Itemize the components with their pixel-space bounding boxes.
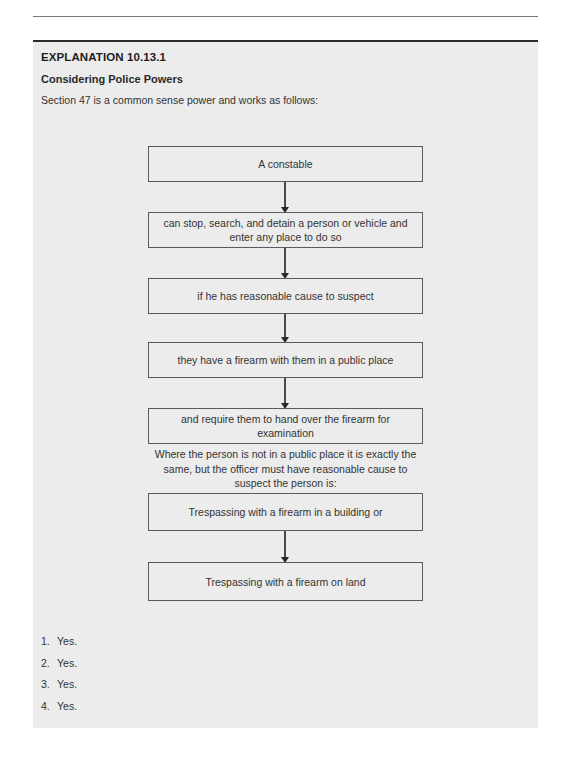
private-place-note: Where the person is not in a public plac… xyxy=(148,447,423,491)
answer-number: 1. xyxy=(41,635,57,657)
arrow-down-icon xyxy=(284,378,286,408)
explanation-label: EXPLANATION 10.13.1 xyxy=(41,51,166,63)
arrow-down-icon xyxy=(284,182,286,212)
flow-step-firearm-public: they have a firearm with them in a publi… xyxy=(148,342,423,378)
answer-text: Yes. xyxy=(57,678,77,700)
explanation-title: Considering Police Powers xyxy=(41,73,183,85)
flow-alt-land: Trespassing with a firearm on land xyxy=(148,562,423,601)
arrow-down-icon xyxy=(284,314,286,342)
explanation-box: EXPLANATION 10.13.1 Considering Police P… xyxy=(33,40,538,728)
answer-item: 2.Yes. xyxy=(41,657,77,679)
answer-number: 2. xyxy=(41,657,57,679)
answer-item: 4.Yes. xyxy=(41,700,77,722)
answer-text: Yes. xyxy=(57,657,77,679)
answer-number: 4. xyxy=(41,700,57,722)
answer-number: 3. xyxy=(41,678,57,700)
flow-alt-building: Trespassing with a firearm in a building… xyxy=(148,493,423,531)
arrow-down-icon xyxy=(284,531,286,562)
arrow-down-icon xyxy=(284,248,286,278)
running-head-rule xyxy=(33,16,538,17)
intro-text: Section 47 is a common sense power and w… xyxy=(41,94,318,106)
flow-step-reasonable-cause: if he has reasonable cause to suspect xyxy=(148,278,423,314)
flow-step-constable: A constable xyxy=(148,146,423,182)
flow-step-hand-over: and require them to hand over the firear… xyxy=(148,408,423,444)
answer-text: Yes. xyxy=(57,635,77,657)
answer-item: 3.Yes. xyxy=(41,678,77,700)
answer-text: Yes. xyxy=(57,700,77,722)
answer-item: 1.Yes. xyxy=(41,635,77,657)
answers-list: 1.Yes. 2.Yes. 3.Yes. 4.Yes. xyxy=(41,635,77,721)
flow-step-stop-search: can stop, search, and detain a person or… xyxy=(148,212,423,248)
